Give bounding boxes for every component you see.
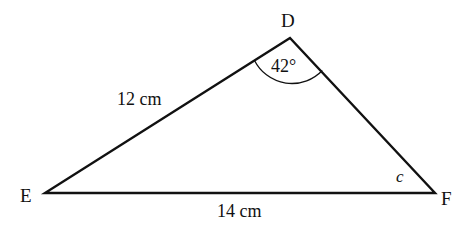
angle-label-d: 42° <box>271 56 296 76</box>
vertex-label-d: D <box>281 10 295 31</box>
vertex-label-f: F <box>441 188 452 209</box>
triangle-diagram: D E F 42° c 12 cm 14 cm <box>0 0 467 240</box>
side-label-ef: 14 cm <box>217 201 262 221</box>
vertex-label-e: E <box>20 185 32 206</box>
side-label-de: 12 cm <box>117 89 162 109</box>
triangle-def <box>45 38 435 193</box>
angle-label-f: c <box>396 167 404 186</box>
